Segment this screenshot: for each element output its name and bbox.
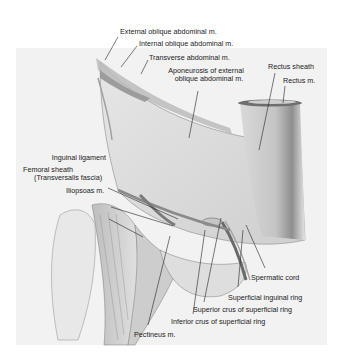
thigh-muscles: [92, 204, 180, 345]
label-spermatic-cord: Spermatic cord: [251, 274, 299, 282]
label-inguinal-ligament: Inguinal ligament: [20, 154, 106, 162]
label-femoral-sheath-line2: (Transversalis fascia): [23, 174, 102, 182]
label-aponeurosis: Aponeurosis of external oblique abdomina…: [162, 67, 250, 83]
label-internal-oblique: Internal oblique abdominal m.: [139, 40, 233, 48]
label-rectus-sheath: Rectus sheath: [268, 63, 314, 71]
label-femoral-sheath: Femoral sheath (Transversalis fascia): [23, 166, 102, 182]
label-pectineus: Pectineus m.: [134, 331, 176, 339]
label-superficial-inguinal-ring: Superficial inguinal ring: [228, 294, 302, 302]
label-inferior-crus: Inferior crus of superficial ring: [171, 318, 265, 326]
label-external-oblique: External oblique abdominal m.: [120, 28, 217, 36]
label-superior-crus: Superior crus of superficial ring: [193, 306, 292, 314]
label-rectus-m: Rectus m.: [283, 77, 315, 85]
label-aponeurosis-line2: oblique abdominal m.: [162, 75, 250, 83]
label-iliopsoas: Iliopsoas m.: [66, 187, 104, 195]
label-transverse-abdominal: Transverse abdominal m.: [149, 54, 230, 62]
